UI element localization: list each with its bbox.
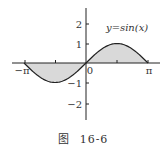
y-tick-label-m2: −2 — [67, 99, 82, 110]
curve-label: y=sin(x) — [105, 22, 148, 33]
x-tick-label-neg-pi: −π — [15, 65, 30, 76]
y-tick-label-1: 1 — [76, 39, 82, 50]
caption-prefix: 图 — [58, 133, 70, 146]
y-tick-label-2: 2 — [76, 19, 82, 30]
caption-number: 16-6 — [80, 133, 109, 146]
x-tick-label-pi: π — [146, 65, 153, 76]
y-tick-label-m1: −1 — [67, 78, 82, 89]
x-tick-label-zero: 0 — [87, 65, 93, 76]
figure-caption: 图16-6 — [0, 130, 166, 146]
sine-chart: 2 1 −1 −2 −π 0 π y=sin(x) — [0, 0, 166, 151]
